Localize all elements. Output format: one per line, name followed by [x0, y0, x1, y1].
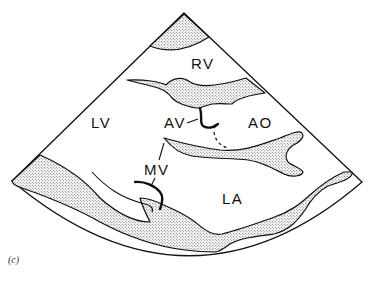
aortic-valve-dashed-cusp [214, 132, 228, 148]
label-lv: LV [91, 114, 111, 131]
aortic-valve [200, 108, 218, 127]
label-la: LA [222, 190, 243, 207]
label-mv: MV [144, 161, 170, 178]
label-ao: AO [248, 114, 273, 131]
mv-leader-line-down [152, 178, 155, 184]
chest-wall-tissue [150, 14, 209, 50]
echocardiogram-diagram: RV LV AV AO MV LA (c) [0, 0, 375, 281]
label-av: AV [164, 114, 186, 131]
av-leader-line [187, 119, 198, 123]
figure-caption: (c) [8, 254, 20, 266]
label-rv: RV [191, 55, 215, 72]
anterior-mitral-aortic-wall [164, 132, 303, 176]
septum-tissue [127, 78, 265, 108]
mv-leader-line-up [159, 143, 164, 160]
